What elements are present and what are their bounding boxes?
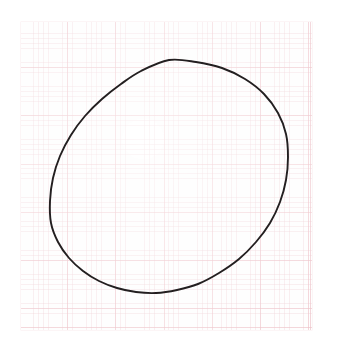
graph-paper-sheet xyxy=(21,22,312,330)
scanned-image-canvas xyxy=(0,0,338,351)
